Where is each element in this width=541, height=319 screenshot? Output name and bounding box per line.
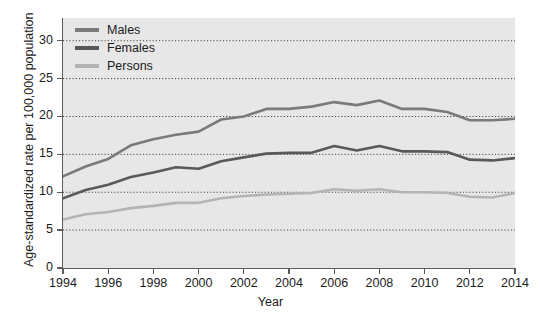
y-axis-tick (57, 192, 62, 193)
y-axis-tick (57, 116, 62, 117)
legend-item-males[interactable]: Males (75, 22, 155, 38)
y-axis-tick-label: 30 (39, 34, 53, 47)
x-axis-tick (62, 269, 63, 274)
line-chart: 0510152025301994199619982000200220042006… (0, 0, 541, 319)
legend-swatch-males (75, 28, 99, 31)
x-axis-tick (469, 269, 470, 274)
y-axis-tick-label: 15 (39, 147, 53, 160)
x-axis-tick (198, 269, 199, 274)
legend-label: Persons (107, 60, 153, 73)
series-line-persons (63, 189, 515, 219)
series-line-males (63, 101, 515, 177)
legend-item-females[interactable]: Females (75, 40, 155, 56)
x-axis-tick (288, 269, 289, 274)
y-axis-tick-label: 0 (46, 261, 53, 274)
y-axis-tick (57, 267, 62, 268)
x-axis-tick (243, 269, 244, 274)
x-axis-tick (379, 269, 380, 274)
x-axis-tick (153, 269, 154, 274)
x-axis-tick-label: 2014 (485, 276, 541, 290)
legend-label: Males (107, 24, 140, 37)
y-axis-tick-label: 25 (39, 72, 53, 85)
y-axis-tick (57, 40, 62, 41)
y-axis-tick-label: 5 (46, 223, 53, 236)
legend-swatch-persons (75, 64, 99, 67)
y-axis-tick-label: 10 (39, 185, 53, 198)
y-axis-tick-label: 20 (39, 109, 53, 122)
x-axis-tick (514, 269, 515, 274)
chart-legend: MalesFemalesPersons (75, 22, 155, 76)
legend-item-persons[interactable]: Persons (75, 58, 155, 74)
x-axis-title: Year (0, 295, 541, 309)
y-axis-tick (57, 154, 62, 155)
y-axis-line (62, 18, 63, 269)
y-axis-title: Age-standardized rate per 100,000 popula… (22, 17, 36, 267)
legend-label: Females (107, 42, 155, 55)
legend-swatch-females (75, 46, 99, 49)
x-axis-tick (424, 269, 425, 274)
x-axis-tick (108, 269, 109, 274)
y-axis-tick (57, 229, 62, 230)
x-axis-tick (334, 269, 335, 274)
y-axis-tick (57, 78, 62, 79)
